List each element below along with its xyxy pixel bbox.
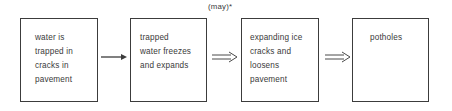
- double-arrow-icon: [324, 51, 352, 63]
- step-ice-cracks-box: expanding ice cracks and loosens pavemen…: [241, 18, 319, 102]
- double-arrow-icon: [211, 51, 239, 63]
- single-arrow-icon: [100, 52, 128, 62]
- step-water-freezes-box: trapped water freezes and expands: [130, 18, 207, 102]
- step-potholes-text: potholes: [370, 31, 402, 45]
- step-water-trapped-box: water is trapped in cracks in pavement: [20, 18, 98, 102]
- step-water-trapped-text: water is trapped in cracks in pavement: [35, 31, 73, 87]
- step-water-freezes-text: trapped water freezes and expands: [140, 31, 191, 73]
- step-ice-cracks-text: expanding ice cracks and loosens pavemen…: [250, 31, 302, 87]
- may-annotation-label: (may)*: [208, 2, 232, 11]
- step-potholes-box: potholes: [352, 18, 429, 102]
